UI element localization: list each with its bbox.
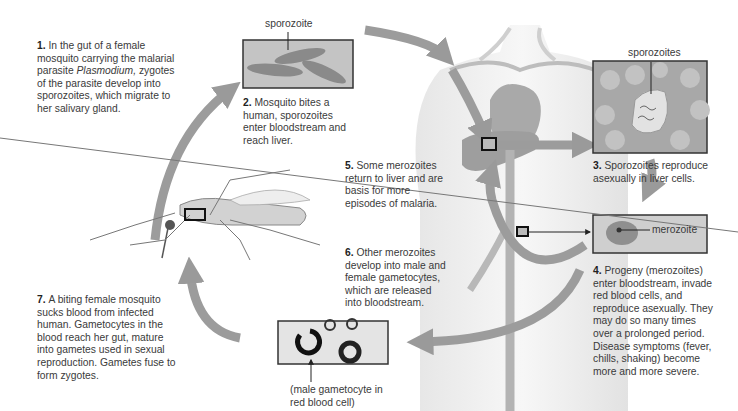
step-2-caption: 2. Mosquito bites a human, sporozoites e… <box>243 97 353 147</box>
gametocyte-caption: (male gametocyte in red blood cell) <box>290 384 400 409</box>
arrow-6-to-7 <box>190 270 240 338</box>
malaria-life-cycle-diagram: sporozoite sporozoites merozoite (male g… <box>0 0 738 411</box>
sporozoites-label: sporozoites <box>628 47 681 58</box>
step-6-number: 6. <box>345 247 354 258</box>
step-4-number: 4. <box>593 265 602 276</box>
liver-highlight-box <box>482 138 496 150</box>
arrow-2-to-human <box>365 30 445 56</box>
step-7-number: 7. <box>37 294 46 305</box>
vessel-highlight-box <box>517 227 528 236</box>
step-3-caption: 3. Sporozoites reproduce asexually in li… <box>593 160 723 185</box>
step-2-number: 2. <box>243 97 252 108</box>
step-5-number: 5. <box>345 160 354 171</box>
step-4-caption: 4. Progeny (merozoites) enter bloodstrea… <box>593 265 718 378</box>
merozoite-label: merozoite <box>652 224 697 235</box>
step-5-caption: 5. Some merozoites return to liver and a… <box>345 160 445 210</box>
step-7-caption: 7. A biting female mosquito sucks blood … <box>37 294 177 382</box>
gametocyte-box <box>278 321 388 364</box>
sporozoite-label: sporozoite <box>265 18 313 29</box>
mosquito-illustration <box>90 170 320 260</box>
step-3-number: 3. <box>593 160 602 171</box>
step-1-caption: 1. In the gut of a female mosquito carry… <box>37 40 177 116</box>
step-1-number: 1. <box>37 40 46 51</box>
step-6-caption: 6. Other merozoites develop into male an… <box>345 247 450 310</box>
